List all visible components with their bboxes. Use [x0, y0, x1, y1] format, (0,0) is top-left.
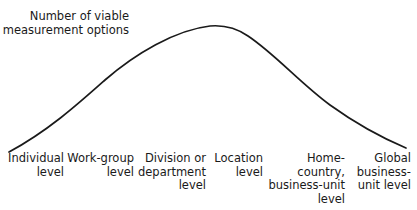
category-label-individual-level: Individual level [0, 152, 64, 179]
figure-inverted-u-curve: Number of viable measurement options Ind… [0, 0, 417, 210]
category-label-home-country-business-unit-level: Home-country, business-unit level [265, 152, 345, 206]
category-label-division-or-department-level: Division or department level [136, 152, 206, 193]
category-axis: Individual level Work-group level Divisi… [0, 152, 417, 208]
viable-options-curve [9, 26, 406, 152]
category-label-location-level: Location level [208, 152, 263, 179]
category-label-work-group-level: Work-group level [66, 152, 134, 179]
category-label-global-business-unit-level: Global business- unit level [347, 152, 411, 193]
